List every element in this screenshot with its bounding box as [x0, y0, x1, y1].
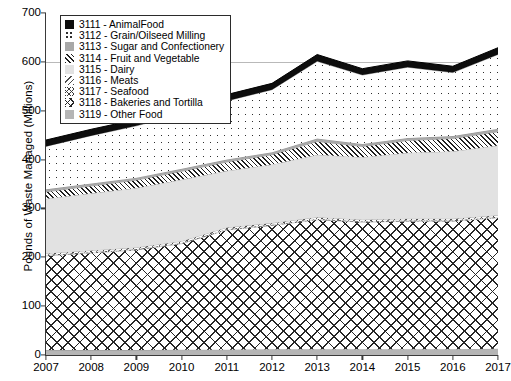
- legend-item-label: 3114 - Fruit and Vegetable: [79, 53, 200, 64]
- x-axis-tick-label: 2011: [214, 362, 239, 374]
- swatch-light-grey-icon: [65, 65, 74, 74]
- y-axis-title: Pounds of Waste Managed (Millions): [22, 51, 34, 301]
- legend-item: 3119 - Other Food: [65, 109, 224, 120]
- y-axis-tick-label: 700: [22, 7, 41, 19]
- x-axis-tick-mark: [45, 355, 46, 360]
- y-axis-tick-mark: [41, 257, 46, 258]
- y-axis-tick-mark: [41, 306, 46, 307]
- chart-legend: 3111 - AnimalFood3112 - Grain/Oilseed Mi…: [60, 15, 231, 124]
- legend-item-label: 3113 - Sugar and Confectionery: [79, 41, 224, 52]
- swatch-grey-icon: [65, 42, 74, 51]
- swatch-mid-grey-icon: [65, 110, 74, 119]
- x-axis-tick-label: 2007: [33, 362, 59, 374]
- swatch-crosshatch-icon: [65, 98, 74, 107]
- legend-item-label: 3115 - Dairy: [79, 64, 134, 75]
- y-axis-tick-mark: [41, 208, 46, 209]
- legend-item-label: 3116 - Meats: [79, 75, 138, 86]
- y-axis-tick-mark: [41, 159, 46, 160]
- x-axis-tick-mark: [91, 355, 92, 360]
- x-axis-tick-mark: [452, 355, 453, 360]
- y-axis-tick-label: 400: [22, 154, 41, 166]
- legend-item: 3114 - Fruit and Vegetable: [65, 53, 224, 64]
- legend-item-label: 3118 - Bakeries and Tortilla: [79, 97, 203, 108]
- legend-item: 3111 - AnimalFood: [65, 19, 224, 30]
- legend-item-label: 3117 - Seafood: [79, 86, 149, 97]
- x-axis-tick-label: 2015: [395, 362, 421, 374]
- x-axis-tick-mark: [407, 355, 408, 360]
- y-axis-tick-label: 600: [22, 56, 41, 68]
- x-axis-tick-mark: [181, 355, 182, 360]
- x-axis-tick-label: 2009: [124, 362, 150, 374]
- y-axis-tick-label: 300: [22, 203, 41, 215]
- x-axis-tick-label: 2016: [440, 362, 466, 374]
- x-axis-tick-label: 2017: [485, 362, 511, 374]
- x-axis-tick-label: 2014: [350, 362, 376, 374]
- legend-item-label: 3111 - AnimalFood: [79, 19, 164, 30]
- legend-item: 3113 - Sugar and Confectionery: [65, 41, 224, 52]
- y-axis-tick-mark: [41, 110, 46, 111]
- x-axis-tick-mark: [497, 355, 498, 360]
- x-axis-tick-mark: [226, 355, 227, 360]
- swatch-back-hatch-icon: [65, 76, 74, 85]
- x-axis-tick-label: 2010: [169, 362, 195, 374]
- legend-item-label: 3119 - Other Food: [79, 109, 162, 120]
- x-axis-tick-mark: [317, 355, 318, 360]
- y-axis-tick-mark: [41, 12, 46, 13]
- swatch-fine-cross-icon: [65, 87, 74, 96]
- x-axis-tick-label: 2008: [78, 362, 104, 374]
- y-axis-tick-label: 200: [22, 252, 41, 264]
- legend-item: 3115 - Dairy: [65, 64, 224, 75]
- y-axis-tick-label: 500: [22, 105, 41, 117]
- legend-item-label: 3112 - Grain/Oilseed Milling: [79, 30, 205, 41]
- x-axis-tick-mark: [362, 355, 363, 360]
- swatch-diagonal-hatch-icon: [65, 54, 74, 63]
- legend-item: 3118 - Bakeries and Tortilla: [65, 97, 224, 108]
- legend-item: 3116 - Meats: [65, 75, 224, 86]
- legend-item: 3117 - Seafood: [65, 86, 224, 97]
- swatch-dotted-icon: [65, 31, 74, 40]
- y-axis-tick-label: 100: [22, 300, 41, 312]
- x-axis-tick-mark: [271, 355, 272, 360]
- x-axis-tick-label: 2012: [259, 362, 285, 374]
- y-axis-tick-mark: [41, 61, 46, 62]
- x-axis-tick-mark: [136, 355, 137, 360]
- swatch-solid-black-icon: [65, 20, 74, 29]
- legend-item: 3112 - Grain/Oilseed Milling: [65, 30, 224, 41]
- x-axis-tick-label: 2013: [304, 362, 330, 374]
